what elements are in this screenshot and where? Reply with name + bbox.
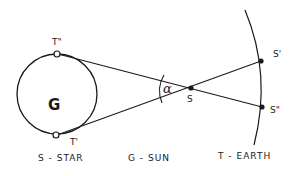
ray-upper: [58, 54, 262, 107]
label-star-center: G: [48, 98, 60, 113]
earth-orbit-arc: [245, 10, 261, 145]
label-s-double-prime: S": [270, 106, 280, 115]
point-t-prime: [53, 132, 59, 138]
caption-earth: T - EARTH: [218, 152, 271, 161]
point-t-double-prime: [54, 51, 60, 57]
caption-sun: G - SUN: [128, 154, 170, 163]
point-s-double-prime: [259, 104, 264, 109]
star-circle: [17, 54, 97, 134]
label-angle-alpha: α: [163, 82, 172, 95]
ray-lower: [57, 61, 261, 135]
diagram-drawing: [0, 0, 298, 176]
label-t-prime: T': [70, 138, 78, 147]
label-sun-point: S: [187, 95, 193, 104]
caption-star: S - STAR: [38, 154, 84, 163]
diagram-canvas: T" T' G α S S' S" S - STAR G - SUN T - E…: [0, 0, 298, 176]
point-s-sun: [188, 85, 193, 90]
label-s-prime: S': [273, 50, 281, 59]
label-t-double-prime: T": [52, 38, 62, 47]
point-s-prime: [258, 58, 263, 63]
